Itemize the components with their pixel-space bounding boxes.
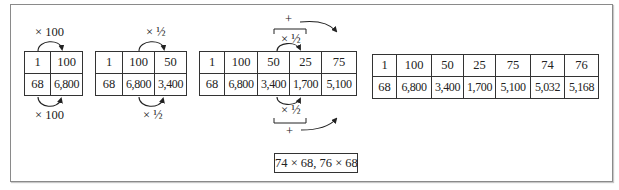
ratio-table-2: 1 100 50 68 6,800 3,400 [95, 51, 187, 96]
table-cell: 1,700 [464, 77, 496, 99]
table-cell: 68 [96, 74, 123, 96]
multiplier-label: × ½ [281, 32, 301, 47]
ratio-table-1: 1 100 68 6,800 [24, 51, 83, 96]
table-row-bottom: 68 6,800 [25, 74, 83, 96]
table-cell: 5,100 [496, 77, 531, 99]
table-row-top: 1 100 50 25 75 74 76 [373, 55, 599, 77]
table-row-top: 1 100 50 25 75 [200, 52, 357, 74]
table-cell: 1 [96, 52, 123, 74]
table-cell: 100 [225, 52, 258, 74]
table-cell: 6,800 [123, 74, 155, 96]
table-cell: 75 [496, 55, 531, 77]
table-row-bottom: 68 6,800 3,400 1,700 5,100 [200, 74, 357, 96]
multiplier-label: × ½ [143, 108, 163, 123]
table-cell: 3,400 [155, 74, 187, 96]
table-cell: 68 [373, 77, 397, 99]
ratio-table-4: 1 100 50 25 75 74 76 68 6,800 3,400 1,70… [372, 54, 599, 99]
table-cell: 100 [123, 52, 155, 74]
table-row-bottom: 68 6,800 3,400 1,700 5,100 5,032 5,168 [373, 77, 599, 99]
table-cell: 6,800 [225, 74, 258, 96]
table-cell: 6,800 [51, 74, 83, 96]
table-cell: 50 [432, 55, 464, 77]
table-cell: 5,100 [322, 74, 357, 96]
ratio-table-3: 1 100 50 25 75 68 6,800 3,400 1,700 5,10… [199, 51, 357, 96]
table-cell: 1 [373, 55, 397, 77]
table-row-top: 1 100 [25, 52, 83, 74]
table-cell: 6,800 [397, 77, 432, 99]
table-cell: 1 [25, 52, 51, 74]
multiplier-label: × ½ [281, 103, 301, 118]
multiplier-label: × 100 [35, 25, 64, 40]
table-cell: 1 [200, 52, 225, 74]
table-cell: 75 [322, 52, 357, 74]
table-cell: 76 [565, 55, 599, 77]
table-cell: 25 [290, 52, 322, 74]
table-cell: 100 [397, 55, 432, 77]
table-cell: 50 [155, 52, 187, 74]
plus-label: + [286, 124, 293, 139]
table-cell: 100 [51, 52, 83, 74]
table-cell: 3,400 [432, 77, 464, 99]
table-cell: 74 [531, 55, 565, 77]
table-cell: 68 [200, 74, 225, 96]
table-cell: 1,700 [290, 74, 322, 96]
answer-box: 74 × 68, 76 × 68 [274, 153, 358, 173]
table-row-top: 1 100 50 [96, 52, 187, 74]
table-cell: 5,032 [531, 77, 565, 99]
table-cell: 25 [464, 55, 496, 77]
multiplier-label: × ½ [146, 25, 166, 40]
table-row-bottom: 68 6,800 3,400 [96, 74, 187, 96]
table-cell: 3,400 [258, 74, 290, 96]
multiplier-label: × 100 [35, 108, 64, 123]
table-cell: 68 [25, 74, 51, 96]
table-cell: 50 [258, 52, 290, 74]
table-cell: 5,168 [565, 77, 599, 99]
plus-label: + [285, 12, 292, 27]
